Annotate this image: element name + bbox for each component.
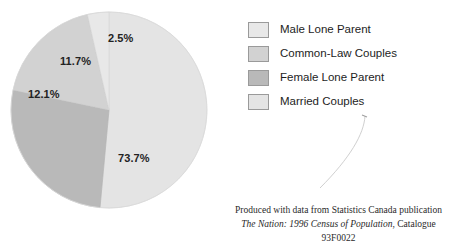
credit-line-2: The Nation: 1996 Census of Population, C…	[224, 218, 453, 245]
pie-label-female-lone-parent: 12.1%	[28, 88, 60, 100]
scan-curve-artifact	[318, 112, 398, 192]
credit-publication-title: The Nation: 1996 Census of Population	[241, 219, 392, 229]
legend-item-female-lone-parent: Female Lone Parent	[248, 66, 448, 90]
legend-item-common-law-couples: Common-Law Couples	[248, 42, 448, 66]
source-credit: Produced with data from Statistics Canad…	[224, 204, 453, 245]
legend-item-married-couples: Married Couples	[248, 90, 448, 114]
legend-label: Male Lone Parent	[280, 24, 371, 36]
pie-slice-female-lone-parent	[11, 90, 109, 208]
chart-legend: Male Lone Parent Common-Law Couples Fema…	[248, 18, 448, 114]
legend-swatch-icon	[248, 94, 269, 110]
pie-label-common-law-couples: 11.7%	[60, 55, 91, 67]
legend-swatch-icon	[248, 46, 269, 62]
legend-label: Married Couples	[280, 96, 364, 108]
legend-label: Female Lone Parent	[280, 72, 384, 84]
pie-chart-graphic: 2.5% 11.7% 12.1% 73.7%	[8, 10, 210, 210]
credit-line-1: Produced with data from Statistics Canad…	[224, 204, 453, 218]
legend-label: Common-Law Couples	[280, 48, 397, 60]
legend-swatch-icon	[248, 70, 269, 86]
pie-label-married-couples: 73.7%	[118, 152, 150, 164]
legend-item-male-lone-parent: Male Lone Parent	[248, 18, 448, 42]
legend-swatch-icon	[248, 22, 269, 38]
pie-label-male-lone-parent: 2.5%	[108, 32, 133, 44]
